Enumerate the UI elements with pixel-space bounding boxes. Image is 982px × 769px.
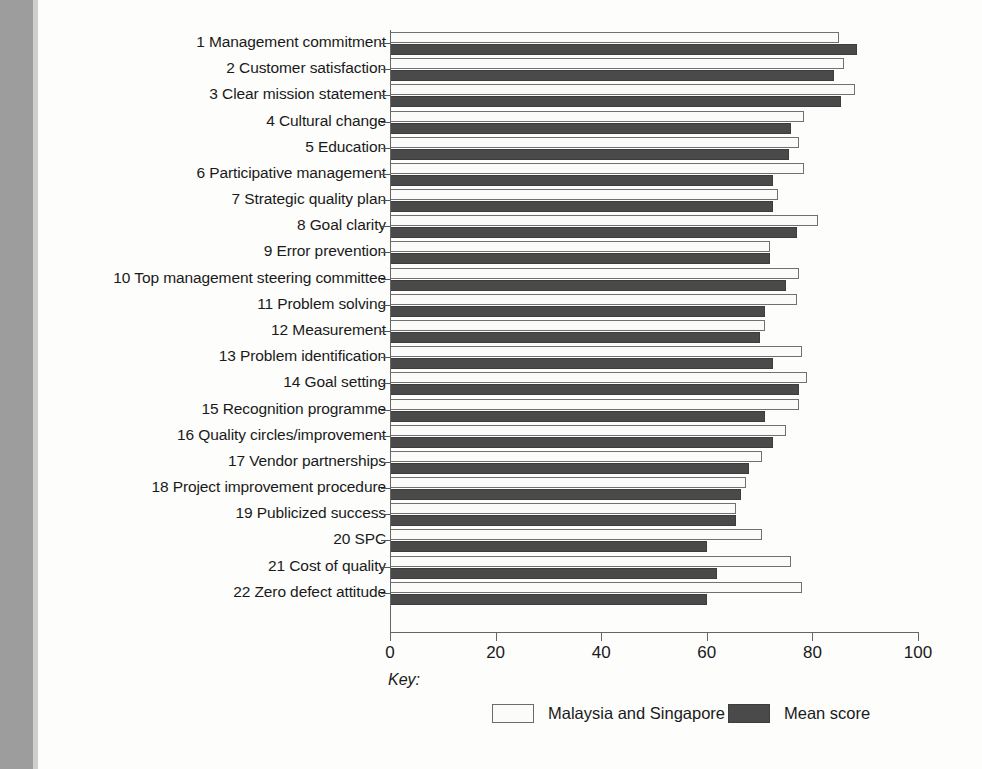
bar-mean-score [390,411,765,422]
bar-mean-score [390,437,773,448]
bar-malaysia-and-singapore [390,58,844,69]
bar-mean-score [390,123,791,134]
chart-row: 13 Problem identification [0,345,982,371]
x-axis-tick-label: 100 [878,643,958,663]
y-axis-tick [381,305,390,306]
x-axis-tick-label: 40 [561,643,641,663]
bar-mean-score [390,201,773,212]
legend: Malaysia and Singapore Mean score [388,700,948,730]
category-label: 19 Publicized success [0,504,386,522]
chart-row: 9 Error prevention [0,240,982,266]
category-label: 7 Strategic quality plan [0,190,386,208]
bar-malaysia-and-singapore [390,137,799,148]
y-axis-tick [381,174,390,175]
legend-title: Key: [388,671,420,689]
bar-malaysia-and-singapore [390,451,762,462]
legend-swatch-icon [492,704,534,723]
chart-row: 15 Recognition programme [0,398,982,424]
chart-row: 21 Cost of quality [0,555,982,581]
category-label: 14 Goal setting [0,373,386,391]
bar-malaysia-and-singapore [390,556,791,567]
x-axis-tick [918,632,919,641]
chart-row: 18 Project improvement procedure [0,476,982,502]
bar-mean-score [390,463,749,474]
chart-row: 7 Strategic quality plan [0,188,982,214]
chart-row: 22 Zero defect attitude [0,581,982,607]
bar-malaysia-and-singapore [390,582,802,593]
bar-malaysia-and-singapore [390,529,762,540]
chart-row: 2 Customer satisfaction [0,57,982,83]
category-label: 11 Problem solving [0,295,386,313]
bar-malaysia-and-singapore [390,268,799,279]
legend-item-label: Mean score [784,704,870,723]
x-axis-tick-label: 20 [456,643,536,663]
bar-mean-score [390,358,773,369]
chart-row: 8 Goal clarity [0,214,982,240]
bar-malaysia-and-singapore [390,294,797,305]
bar-malaysia-and-singapore [390,32,839,43]
bar-malaysia-and-singapore [390,189,778,200]
bar-malaysia-and-singapore [390,320,765,331]
category-label: 10 Top management steering committee [0,269,386,287]
category-label: 12 Measurement [0,321,386,339]
chart-row: 5 Education [0,136,982,162]
x-axis-tick [601,632,602,641]
bar-malaysia-and-singapore [390,425,786,436]
category-label: 20 SPC [0,530,386,548]
chart-row: 4 Cultural change [0,110,982,136]
category-label: 9 Error prevention [0,242,386,260]
category-label: 13 Problem identification [0,347,386,365]
y-axis-tick [381,540,390,541]
bar-mean-score [390,332,760,343]
category-label: 1 Management commitment [0,33,386,51]
legend-swatch-icon [728,704,770,723]
y-axis-tick [381,567,390,568]
category-label: 16 Quality circles/improvement [0,426,386,444]
chart-row: 17 Vendor partnerships [0,450,982,476]
legend-item-malaysia-and-singapore: Malaysia and Singapore [492,700,725,726]
category-label: 18 Project improvement procedure [0,478,386,496]
bar-mean-score [390,489,741,500]
chart-row: 1 Management commitment [0,31,982,57]
category-label: 21 Cost of quality [0,557,386,575]
bar-mean-score [390,227,797,238]
bar-mean-score [390,384,799,395]
y-axis-tick [381,331,390,332]
category-label: 4 Cultural change [0,112,386,130]
y-axis-tick [381,462,390,463]
bar-malaysia-and-singapore [390,84,855,95]
category-label: 8 Goal clarity [0,216,386,234]
category-label: 3 Clear mission statement [0,85,386,103]
bar-malaysia-and-singapore [390,372,807,383]
y-axis-line [390,30,391,633]
x-axis-tick-label: 0 [350,643,430,663]
bar-mean-score [390,280,786,291]
y-axis-tick [381,410,390,411]
chart-row: 3 Clear mission statement [0,83,982,109]
bar-malaysia-and-singapore [390,477,746,488]
y-axis-tick [381,95,390,96]
bar-mean-score [390,70,834,81]
bar-malaysia-and-singapore [390,399,799,410]
category-label: 17 Vendor partnerships [0,452,386,470]
y-axis-tick [381,279,390,280]
y-axis-tick [381,514,390,515]
x-axis-tick [707,632,708,641]
bar-mean-score [390,306,765,317]
legend-item-label: Malaysia and Singapore [548,704,725,723]
y-axis-tick [381,148,390,149]
bar-mean-score [390,541,707,552]
bar-mean-score [390,149,789,160]
bar-mean-score [390,568,717,579]
bar-malaysia-and-singapore [390,163,804,174]
bar-mean-score [390,96,841,107]
x-axis-tick [812,632,813,641]
y-axis-tick [381,488,390,489]
bar-malaysia-and-singapore [390,111,804,122]
y-axis-tick [381,200,390,201]
bar-malaysia-and-singapore [390,241,770,252]
y-axis-tick [381,593,390,594]
bar-malaysia-and-singapore [390,346,802,357]
y-axis-tick [381,383,390,384]
bar-mean-score [390,594,707,605]
